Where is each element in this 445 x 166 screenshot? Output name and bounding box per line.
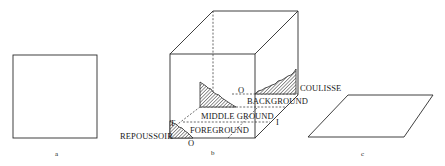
- caption-c: c: [361, 150, 364, 158]
- parallelogram-shape: [308, 95, 433, 137]
- coulisse-hatch: [255, 69, 296, 94]
- foreground-label: FOREGROUND: [190, 125, 249, 135]
- square-shape: [13, 55, 97, 138]
- panel-a-square: [13, 55, 97, 138]
- background-label: BACKGROUND: [247, 96, 308, 106]
- caption-a: a: [55, 150, 59, 158]
- caption-b: b: [211, 149, 215, 157]
- background-wedge-hatch: [200, 82, 236, 107]
- o-bottom-label: O: [188, 138, 194, 148]
- cube-top-face: [170, 11, 298, 54]
- middle-ground-label: MIDDLE GROUND: [201, 111, 274, 121]
- diagram-canvas: O BACKGROUND MIDDLE GROUND T FOREGROUND …: [0, 0, 445, 166]
- panel-b-cube: O BACKGROUND MIDDLE GROUND T FOREGROUND …: [120, 11, 341, 148]
- panel-c-parallelogram: [308, 95, 433, 137]
- o-top-label: O: [238, 85, 244, 95]
- t-mark-label: T: [170, 118, 176, 128]
- i-mark-label: I: [276, 117, 279, 127]
- repoussoir-label: REPOUSSOIR: [120, 131, 173, 141]
- coulisse-label: COULISSE: [300, 83, 341, 93]
